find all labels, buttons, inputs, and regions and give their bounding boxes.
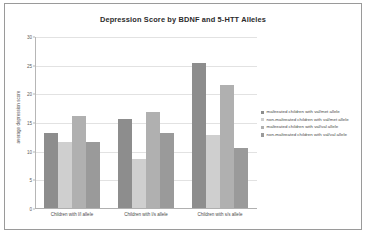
legend-item: maltreated children with val/met allele: [261, 110, 359, 114]
bar: [234, 148, 248, 208]
legend-label: non-maltreated children with val/met all…: [267, 118, 349, 122]
legend-item: non-maltreated children with val/met all…: [261, 118, 359, 122]
y-tick-label: 5: [29, 178, 32, 183]
bar: [132, 159, 146, 208]
y-tick-label: 25: [27, 63, 32, 68]
x-tick-label: Children with l/l allele: [35, 212, 109, 217]
chart-title: Depression Score by BDNF and 5-HTT Allel…: [5, 15, 361, 24]
bar-group: Children with l/s allele: [109, 37, 183, 208]
legend-swatch: [261, 133, 264, 136]
y-tick-label: 0: [29, 207, 32, 212]
legend-swatch: [261, 118, 264, 121]
bar: [192, 63, 206, 208]
bar: [86, 142, 100, 208]
legend-swatch: [261, 111, 264, 114]
bar: [146, 112, 160, 208]
chart-frame: Depression Score by BDNF and 5-HTT Allel…: [4, 3, 362, 230]
bar: [220, 85, 234, 208]
bar: [44, 133, 58, 208]
y-tick-label: 20: [27, 92, 32, 97]
legend-label: maltreated children with val/met allele: [267, 110, 340, 114]
bar: [206, 135, 220, 208]
bar-group: Children with s/s allele: [183, 37, 257, 208]
bar-group: Children with l/l allele: [35, 37, 109, 208]
plot-area: 051015202530 Children with l/l alleleChi…: [35, 37, 257, 209]
chart-legend: maltreated children with val/met allelen…: [261, 110, 359, 140]
x-tick-label: Children with l/s allele: [109, 212, 183, 217]
bar: [118, 119, 132, 208]
legend-label: non-maltreated children with val/val all…: [267, 133, 347, 137]
bar: [58, 142, 72, 208]
y-tick-label: 10: [27, 149, 32, 154]
y-axis-title: average depression score: [16, 90, 21, 143]
legend-label: maltreated children with val/val allele: [267, 125, 339, 129]
y-tick-label: 15: [27, 121, 32, 126]
legend-item: maltreated children with val/val allele: [261, 125, 359, 129]
y-tick-label: 30: [27, 35, 32, 40]
bar: [160, 133, 174, 208]
bar: [72, 116, 86, 208]
legend-swatch: [261, 126, 264, 129]
x-axis-line: [35, 208, 257, 209]
legend-item: non-maltreated children with val/val all…: [261, 133, 359, 137]
x-tick-label: Children with s/s allele: [183, 212, 257, 217]
